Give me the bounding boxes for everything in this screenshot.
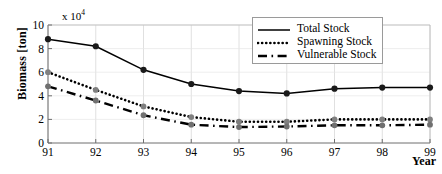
data-point: [141, 104, 147, 110]
data-point: [427, 84, 433, 90]
y-tick-label: 6: [38, 66, 44, 78]
x-tick-label: 97: [329, 146, 341, 158]
x-tick-label: 95: [233, 146, 245, 158]
data-point: [379, 122, 385, 128]
y-axis-title: Biomass [ton]: [15, 4, 30, 124]
data-point: [427, 122, 433, 128]
data-point: [93, 98, 99, 104]
data-point: [93, 43, 99, 49]
y-axis-multiplier-exponent: 4: [81, 8, 85, 17]
data-point: [379, 117, 385, 123]
legend-label: Vulnerable Stock: [297, 48, 376, 60]
legend-line-sample-icon: [257, 22, 291, 34]
x-tick-label: 92: [90, 146, 102, 158]
x-tick-label: 98: [377, 146, 389, 158]
legend-item-1: Spawning Stock: [257, 34, 376, 47]
data-point: [427, 117, 433, 123]
chart-legend: Total StockSpawning StockVulnerable Stoc…: [252, 17, 383, 64]
legend-line-sample-icon: [257, 35, 291, 47]
x-tick-label: 91: [42, 146, 54, 158]
data-point: [331, 86, 337, 92]
legend-item-2: Vulnerable Stock: [257, 47, 376, 60]
data-point: [332, 122, 338, 128]
legend-label: Spawning Stock: [297, 35, 372, 47]
legend-line-sample-icon: [257, 48, 291, 60]
data-point: [236, 88, 242, 94]
y-tick-label: 4: [38, 90, 44, 102]
y-axis-multiplier-base: x 10: [62, 10, 81, 22]
x-tick-label: 94: [186, 146, 198, 158]
data-point: [236, 119, 242, 125]
data-point: [45, 36, 51, 42]
data-point: [188, 114, 194, 120]
data-point: [379, 84, 385, 90]
data-point: [45, 69, 51, 75]
data-point: [140, 67, 146, 73]
y-axis-multiplier: x 104: [62, 8, 85, 22]
data-point: [93, 87, 99, 93]
data-point: [45, 83, 51, 89]
data-point: [188, 81, 194, 87]
y-tick-label: 10: [33, 19, 45, 31]
data-point: [284, 124, 290, 130]
biomass-line-chart: Biomass [ton] x 104 Year 0246810 9192939…: [0, 0, 442, 174]
legend-item-0: Total Stock: [257, 21, 376, 34]
y-tick-label: 2: [38, 113, 44, 125]
x-tick-label: 93: [138, 146, 150, 158]
y-tick-label: 8: [38, 43, 44, 55]
data-point: [236, 124, 242, 130]
legend-label: Total Stock: [297, 22, 350, 34]
x-tick-label: 96: [281, 146, 293, 158]
data-point: [141, 112, 147, 118]
data-point: [332, 117, 338, 123]
x-tick-label: 99: [424, 146, 436, 158]
data-point: [284, 90, 290, 96]
data-point: [188, 122, 194, 128]
